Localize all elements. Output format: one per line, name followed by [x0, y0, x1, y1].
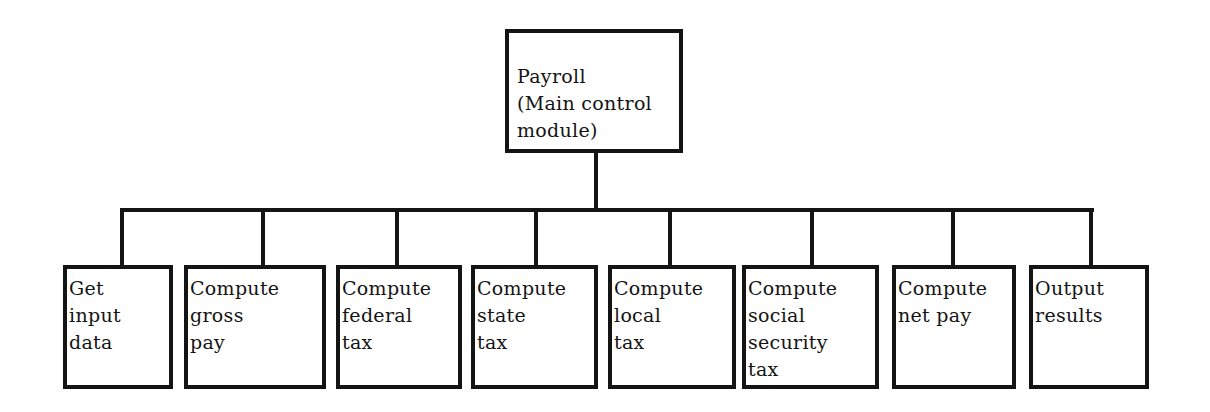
child-connector-8 — [1089, 208, 1093, 266]
module-compute-local-tax: Compute local tax — [608, 265, 736, 389]
module-label: Compute social security tax — [748, 275, 837, 383]
module-label: Compute state tax — [477, 275, 566, 356]
module-compute-net-pay: Compute net pay — [892, 265, 1016, 389]
child-connector-3 — [395, 208, 399, 266]
root-connector-line — [594, 152, 598, 212]
module-label: Compute federal tax — [342, 275, 431, 356]
module-label: Compute local tax — [614, 275, 703, 356]
module-get-input-data: Get input data — [63, 265, 173, 389]
child-connector-6 — [810, 208, 814, 266]
module-compute-federal-tax: Compute federal tax — [336, 265, 462, 389]
child-connector-5 — [668, 208, 672, 266]
root-module-label: Payroll (Main control module) — [517, 63, 652, 144]
child-connector-2 — [261, 208, 265, 266]
module-compute-social-security-tax: Compute social security tax — [742, 265, 879, 389]
child-connector-4 — [534, 208, 538, 266]
horizontal-bus-line — [120, 208, 1094, 212]
module-compute-state-tax: Compute state tax — [471, 265, 598, 389]
module-output-results: Output results — [1029, 265, 1149, 389]
module-label: Get input data — [69, 275, 121, 356]
module-label: Compute gross pay — [190, 275, 279, 356]
module-label: Output results — [1035, 275, 1104, 329]
child-connector-7 — [951, 208, 955, 266]
child-connector-1 — [120, 208, 124, 266]
module-label: Compute net pay — [898, 275, 987, 329]
module-compute-gross-pay: Compute gross pay — [184, 265, 326, 389]
root-module-box: Payroll (Main control module) — [505, 29, 683, 153]
